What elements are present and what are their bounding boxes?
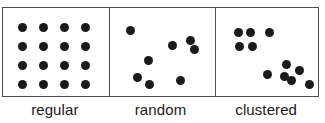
panel-random xyxy=(109,8,215,96)
point-marker xyxy=(81,23,90,32)
panel-label-random: random xyxy=(108,99,214,123)
panel-container xyxy=(2,7,319,97)
point-marker xyxy=(81,61,90,70)
point-marker xyxy=(60,42,69,51)
point-marker xyxy=(190,45,199,54)
point-marker xyxy=(263,70,272,79)
point-marker xyxy=(282,60,291,69)
point-marker xyxy=(145,80,154,89)
point-marker xyxy=(81,42,90,51)
point-marker xyxy=(60,61,69,70)
point-marker xyxy=(60,80,69,89)
point-marker xyxy=(81,80,90,89)
point-marker xyxy=(39,23,48,32)
panel-clustered xyxy=(215,8,320,96)
point-marker xyxy=(18,61,27,70)
point-marker xyxy=(235,42,244,51)
panel-label-regular: regular xyxy=(2,99,108,123)
point-marker xyxy=(234,28,243,37)
point-marker xyxy=(144,56,153,65)
point-marker xyxy=(39,61,48,70)
point-marker xyxy=(295,66,304,75)
panel-regular xyxy=(3,8,109,96)
point-marker xyxy=(265,28,274,37)
point-marker xyxy=(18,42,27,51)
point-marker xyxy=(39,42,48,51)
point-marker xyxy=(60,23,69,32)
panel-labels: regular random clustered xyxy=(2,99,319,123)
point-marker xyxy=(248,42,257,51)
point-marker xyxy=(287,76,296,85)
point-pattern-figure: regular random clustered xyxy=(0,0,325,123)
point-marker xyxy=(39,80,48,89)
point-marker xyxy=(133,73,142,82)
panel-label-clustered: clustered xyxy=(213,99,319,123)
point-marker xyxy=(18,23,27,32)
point-marker xyxy=(246,28,255,37)
point-marker xyxy=(186,36,195,45)
point-marker xyxy=(168,41,177,50)
point-marker xyxy=(305,80,314,89)
point-marker xyxy=(176,76,185,85)
point-marker xyxy=(18,80,27,89)
point-marker xyxy=(126,26,135,35)
